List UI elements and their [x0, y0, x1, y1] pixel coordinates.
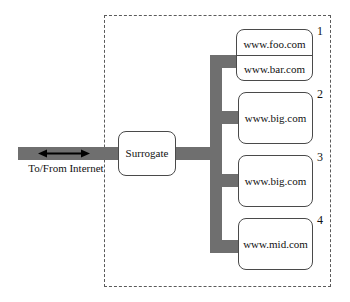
server-numeral-2: 2 — [317, 87, 323, 102]
server-1-host-2: www.bar.com — [237, 63, 312, 75]
server-node-4[interactable]: www.mid.com — [238, 218, 313, 270]
surrogate-label: Surrogate — [119, 147, 175, 159]
server-numeral-3: 3 — [317, 150, 323, 165]
server-1-host-divider — [237, 55, 312, 56]
server-numeral-1: 1 — [317, 24, 323, 39]
bidirectional-arrow-icon — [38, 148, 90, 159]
internet-link-label: To/From Internet — [14, 162, 118, 174]
surrogate-node[interactable]: Surrogate — [118, 131, 176, 176]
server-node-2[interactable]: www.big.com — [238, 92, 313, 144]
server-node-3[interactable]: www.big.com — [238, 155, 313, 207]
server-3-host-1: www.big.com — [239, 175, 312, 187]
server-4-host-1: www.mid.com — [239, 238, 312, 250]
server-numeral-4: 4 — [317, 213, 323, 228]
server-1-host-1: www.foo.com — [237, 38, 312, 50]
distribution-trunk — [210, 55, 222, 253]
server-node-1[interactable]: www.foo.com www.bar.com — [236, 29, 313, 81]
server-2-host-1: www.big.com — [239, 112, 312, 124]
diagram-canvas: Surrogate www.foo.com www.bar.com www.bi… — [0, 0, 350, 302]
